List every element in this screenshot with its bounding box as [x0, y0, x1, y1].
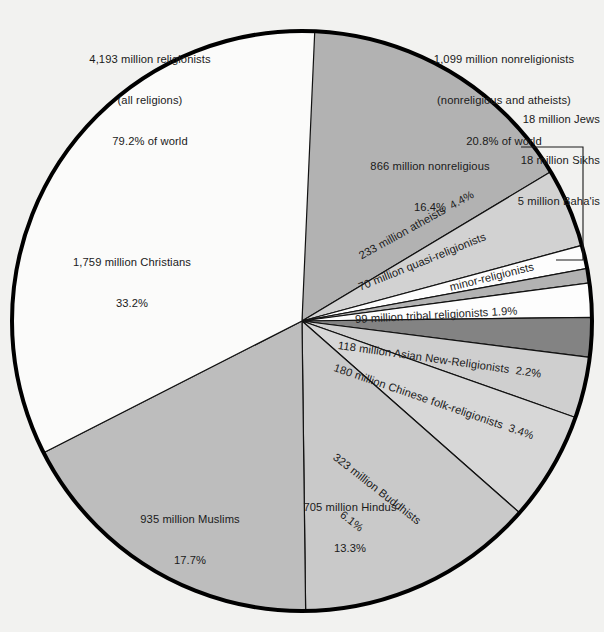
annotation-religionists: 4,193 million religionists (all religion…: [20, 26, 280, 176]
slice-label-christians: 1,759 million Christians 33.2%: [22, 229, 242, 338]
slice-label-muslims-line2: 17.7%: [100, 554, 280, 568]
annotation-religionists-line2: (all religions): [20, 94, 280, 108]
slice-label-christians-line2: 33.2%: [22, 297, 242, 311]
annotation-jews: 18 million Jews: [424, 113, 600, 127]
slice-label-muslims: 935 million Muslims 17.7%: [100, 486, 280, 595]
slice-label-nonreligious-line1: 866 million nonreligious: [330, 160, 530, 174]
annotation-religionists-line3: 79.2% of world: [20, 135, 280, 149]
slice-label-christians-line1: 1,759 million Christians: [22, 256, 242, 270]
slice-label-muslims-line1: 935 million Muslims: [100, 513, 280, 527]
annotation-religionists-line1: 4,193 million religionists: [20, 53, 280, 67]
pie-chart-figure: 4,193 million religionists (all religion…: [0, 0, 604, 632]
annotation-nonreligionists-line1: 1,099 million nonreligionists: [404, 53, 604, 67]
